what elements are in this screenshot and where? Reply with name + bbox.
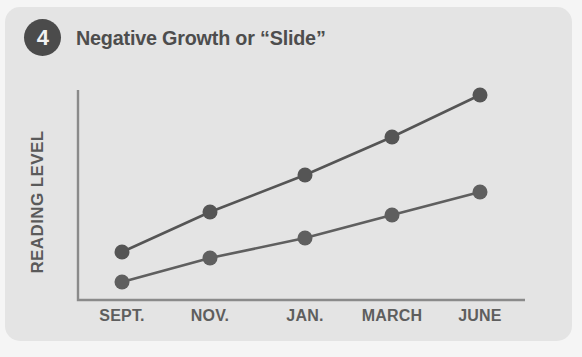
x-tick-label-3: MARCH — [362, 307, 423, 325]
series-0-point-3 — [385, 130, 400, 145]
series-1-point-3 — [385, 208, 400, 223]
series-0-point-0 — [115, 245, 130, 260]
series-0-point-1 — [203, 205, 218, 220]
chart-axes — [78, 90, 525, 300]
series-0-point-2 — [298, 168, 313, 183]
x-tick-label-0: SEPT. — [99, 307, 144, 325]
x-tick-label-2: JAN. — [286, 307, 323, 325]
series-1-point-2 — [298, 231, 313, 246]
x-tick-label-1: NOV. — [191, 307, 229, 325]
chart-plot-area — [0, 0, 582, 357]
screenshot-root: 4 Negative Growth or “Slide” READING LEV… — [0, 0, 582, 357]
series-1-point-1 — [203, 251, 218, 266]
x-tick-label-4: JUNE — [458, 307, 501, 325]
series-1-point-4 — [473, 185, 488, 200]
series-0-point-4 — [473, 88, 488, 103]
line-chart: READING LEVEL SEPT.NOV.JAN.MARCHJUNE — [0, 0, 582, 357]
series-1-point-0 — [115, 275, 130, 290]
